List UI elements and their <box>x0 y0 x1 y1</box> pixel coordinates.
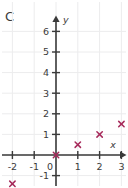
tick-labels: -2-10123-1123456 <box>8 26 125 181</box>
y-tick-label: 2 <box>43 108 49 119</box>
x-axis-label: x <box>109 139 116 150</box>
y-tick-label: 1 <box>43 129 49 140</box>
coordinate-plane: -2-10123-1123456 xy <box>0 0 128 188</box>
x-tick-label: -2 <box>8 161 17 172</box>
grid-lines <box>2 2 126 186</box>
x-tick-label: 1 <box>75 161 81 172</box>
y-tick-label: 6 <box>43 26 49 37</box>
y-tick-label: -1 <box>40 170 49 181</box>
data-points <box>10 121 124 186</box>
y-tick-label: 4 <box>43 67 49 78</box>
y-axis-arrow <box>52 16 59 23</box>
y-tick-label: 5 <box>43 46 49 57</box>
y-tick-label: 3 <box>43 88 49 99</box>
tick-marks <box>12 31 121 175</box>
x-tick-label: -1 <box>29 161 38 172</box>
y-axis-label: y <box>62 14 69 25</box>
x-tick-label: 3 <box>118 161 124 172</box>
axis-names: xy <box>62 14 116 150</box>
axes <box>2 16 127 187</box>
scatter-plot-figure: C -2-10123-1123456 xy <box>0 0 128 188</box>
x-tick-label: 2 <box>97 161 103 172</box>
